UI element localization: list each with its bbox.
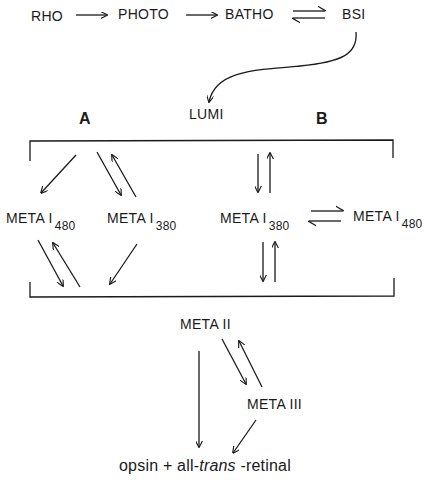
- node-prefix: META I: [6, 210, 53, 226]
- bracket-bottom: [30, 278, 394, 297]
- arrow-bsi-lumi: [209, 32, 356, 102]
- pathway-b-label: B: [316, 111, 328, 127]
- node-meta1-480-a: META I480: [6, 211, 76, 225]
- products-italic: trans: [199, 457, 236, 474]
- arrow-meta1-380-a-lumi-rev: [112, 155, 136, 197]
- products-text-2: -retinal: [236, 457, 291, 474]
- products-text-1: opsin + all-: [119, 457, 199, 474]
- node-meta1-380-a: META I380: [107, 211, 177, 225]
- arrow-meta2-meta1-480-a-rev: [53, 243, 80, 287]
- pathway-a-label: A: [79, 111, 91, 127]
- node-prefix: META I: [220, 210, 267, 226]
- node-subscript: 480: [55, 219, 76, 233]
- arrow-lumi-meta1-380-a-fwd: [97, 152, 121, 195]
- node-meta3: META III: [247, 397, 302, 411]
- node-rho: RHO: [31, 9, 63, 23]
- node-prefix: META I: [353, 208, 400, 224]
- arrow-meta1-380-a-meta2: [110, 244, 137, 284]
- node-meta1-380-b: META I380: [220, 211, 290, 225]
- bracket-top: [30, 140, 393, 161]
- node-bsi: BSI: [342, 7, 365, 21]
- node-photo: PHOTO: [118, 7, 169, 21]
- node-subscript: 380: [269, 219, 290, 233]
- node-prefix: META I: [107, 210, 154, 226]
- node-batho: BATHO: [225, 7, 274, 21]
- node-subscript: 380: [156, 219, 177, 233]
- node-products: opsin + all-trans -retinal: [119, 458, 291, 474]
- node-meta1-480-b: META I480: [353, 209, 423, 223]
- node-meta2: META II: [180, 317, 231, 331]
- arrow-meta3-products: [233, 420, 256, 453]
- arrow-meta3-meta2-rev: [239, 341, 262, 387]
- arrow-meta1-480-a-meta2-fwd: [38, 240, 63, 286]
- node-subscript: 480: [402, 217, 423, 231]
- arrow-meta2-meta3-fwd: [222, 339, 246, 384]
- arrow-lumi-meta1-480-a: [41, 155, 76, 193]
- diagram-arrows: [0, 0, 443, 484]
- node-lumi: LUMI: [189, 107, 224, 121]
